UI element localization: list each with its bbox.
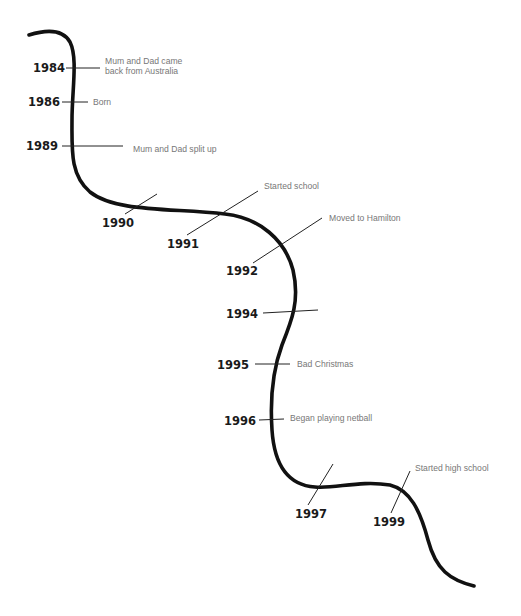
tick-line (263, 310, 318, 313)
event-label: Moved to Hamilton (329, 213, 401, 223)
year-label: 1994 (226, 307, 258, 321)
milestone-1995: 1995 Bad Christmas (217, 358, 353, 372)
tick-line (125, 194, 157, 214)
milestone-1986: 1986 Born (28, 95, 111, 109)
event-label: Bad Christmas (297, 359, 353, 369)
year-label: 1995 (217, 358, 249, 372)
event-label: Born (93, 97, 111, 107)
year-label: 1991 (167, 237, 199, 251)
event-label: Started high school (415, 463, 489, 473)
year-label: 1999 (373, 515, 405, 529)
event-label: Mum and Dad split up (133, 144, 217, 154)
tick-line (308, 464, 333, 505)
year-label: 1992 (226, 264, 258, 278)
year-label: 1996 (224, 414, 256, 428)
timeline-diagram: 1984 Mum and Dad came back from Australi… (0, 0, 521, 616)
year-label: 1986 (28, 95, 60, 109)
milestone-1996: 1996 Began playing netball (224, 413, 372, 428)
year-label: 1984 (33, 61, 65, 75)
year-label: 1989 (26, 139, 58, 153)
event-label: Started school (264, 181, 319, 191)
milestone-1994: 1994 (226, 307, 318, 321)
event-label: Mum and Dad came (105, 56, 183, 66)
event-label: back from Australia (105, 66, 178, 76)
event-label: Began playing netball (290, 413, 372, 423)
milestone-1990: 1990 (102, 194, 157, 230)
milestone-1999: 1999 Started high school (373, 463, 489, 529)
milestone-1984: 1984 Mum and Dad came back from Australi… (33, 56, 183, 76)
tick-line (259, 419, 284, 420)
milestone-1997: 1997 (295, 464, 333, 521)
milestone-1989: 1989 Mum and Dad split up (26, 139, 217, 154)
year-label: 1990 (102, 216, 134, 230)
year-label: 1997 (295, 507, 327, 521)
tick-line (391, 471, 410, 513)
